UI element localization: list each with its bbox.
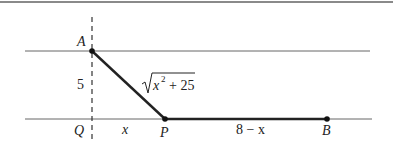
hypotenuse-rest: + 25 <box>169 78 194 93</box>
point-A <box>89 48 95 54</box>
label-hypotenuse: x 2 + 25 <box>142 73 195 93</box>
geometry-diagram: A Q P B 5 x 8 − x x 2 + 25 <box>0 0 393 150</box>
label-A: A <box>76 34 86 49</box>
label-PB-length: 8 − x <box>236 122 265 137</box>
label-vertical-length: 5 <box>77 77 84 92</box>
hypotenuse-base: x <box>152 78 160 93</box>
label-P: P <box>159 125 169 140</box>
label-QP-length: x <box>121 122 129 137</box>
label-B: B <box>322 123 331 138</box>
hypotenuse-exponent: 2 <box>161 74 166 84</box>
point-P <box>162 116 168 122</box>
label-Q: Q <box>74 123 84 138</box>
point-B <box>324 116 330 122</box>
